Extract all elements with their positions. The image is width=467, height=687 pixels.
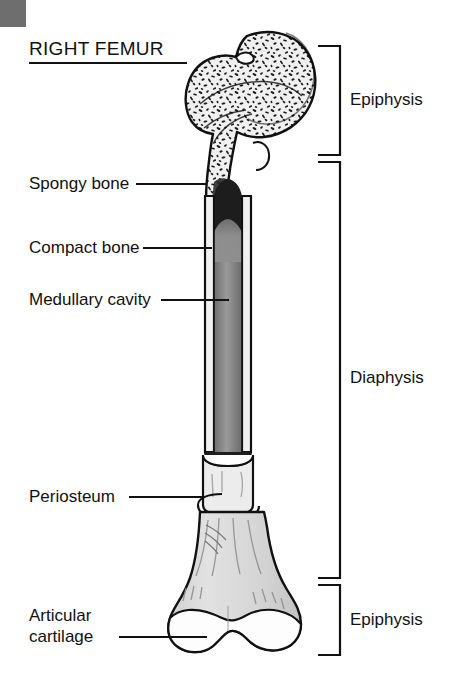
brackets-group: [318, 46, 340, 655]
compact-bone-wall-right: [242, 196, 251, 452]
compact-bone-wall-left: [205, 196, 214, 452]
femur-diagram: RIGHT FEMUR: [0, 0, 467, 687]
label-epiphysis-distal: Epiphysis: [350, 609, 423, 630]
bracket-epiphysis-proximal: [318, 46, 340, 155]
lesser-trochanter: [253, 142, 269, 170]
label-compact-bone: Compact bone: [29, 237, 140, 258]
bracket-epiphysis-distal: [318, 585, 340, 655]
label-periosteum: Periosteum: [29, 486, 115, 507]
intertrochanteric-notch: [236, 53, 254, 64]
periosteum-top-rim: [203, 455, 253, 466]
label-epiphysis-proximal: Epiphysis: [350, 89, 423, 110]
label-medullary-cavity: Medullary cavity: [29, 289, 151, 310]
label-articular-cartilage-line1: Articular: [29, 605, 91, 626]
label-articular-cartilage-line2: cartilage: [29, 626, 93, 647]
label-diaphysis: Diaphysis: [350, 367, 424, 388]
bracket-diaphysis: [318, 162, 340, 578]
proximal-epiphysis-art: [186, 32, 316, 200]
distal-femur-art: [168, 512, 301, 652]
diaphysis-art: [198, 179, 259, 521]
label-spongy-bone: Spongy bone: [29, 173, 129, 194]
